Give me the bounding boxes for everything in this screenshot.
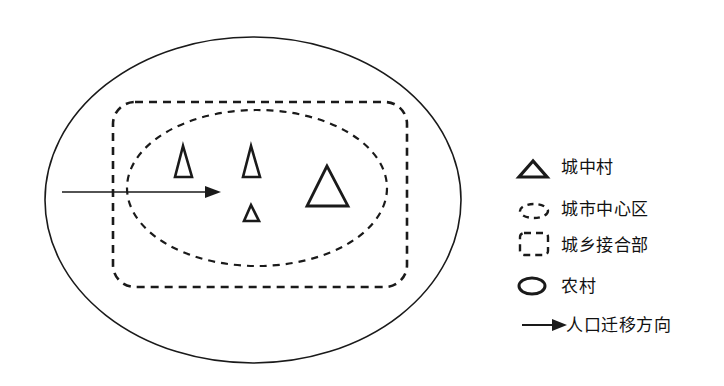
legend: [519, 161, 567, 331]
ellipse-icon: [519, 278, 545, 294]
rural-region: [45, 37, 461, 363]
legend-label: 农村: [561, 274, 596, 298]
village-in-city-triangle-1: [175, 146, 192, 177]
urban-rural-fringe-region: [113, 102, 407, 287]
migration-arrowhead-icon: [205, 186, 221, 198]
dashed-ellipse-icon: [520, 204, 548, 218]
triangle-icon: [519, 161, 547, 177]
legend-label: 城中村: [561, 155, 614, 179]
village-in-city-triangle-2: [243, 146, 260, 177]
legend-label: 城乡接合部: [561, 233, 649, 257]
legend-label: 城市中心区: [561, 197, 649, 221]
arrow-right-icon: [552, 319, 567, 331]
village-in-city-triangle-3: [244, 205, 259, 221]
village-in-city-triangle-4: [307, 166, 348, 206]
dashed-rounded-rect-icon: [520, 233, 548, 255]
legend-label: 人口迁移方向: [566, 313, 671, 337]
city-center-region: [127, 110, 387, 266]
